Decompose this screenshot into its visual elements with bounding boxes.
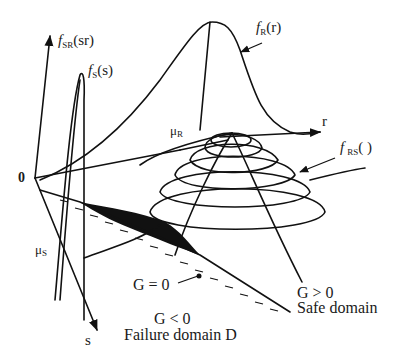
diagram-canvas: fSR(sr) fS(s) fR(r) fRS( ) μR μS 0 r s G… <box>0 0 406 360</box>
origin-label: 0 <box>18 170 25 185</box>
g-zero-label: G = 0 <box>133 276 170 293</box>
interference-diagram: fSR(sr) fS(s) fR(r) fRS( ) μR μS 0 r s G… <box>0 0 406 360</box>
g-negative-label: G < 0 <box>154 310 191 327</box>
fs-curve <box>55 74 84 320</box>
s-axis-label: s <box>85 332 91 348</box>
r-axis-label: r <box>322 113 327 129</box>
limit-state-region <box>40 190 290 312</box>
fs-label: fS(s) <box>88 62 113 80</box>
safe-domain-label: Safe domain <box>297 299 377 316</box>
fsr-label: fSR(sr) <box>58 32 94 50</box>
mu-s-label: μS <box>35 242 47 258</box>
fr-label: fR(r) <box>256 19 281 37</box>
fsr-axis <box>35 36 50 178</box>
frs-label: fRS( ) <box>340 139 372 157</box>
frs-surface <box>140 133 365 282</box>
mu-r-label: μR <box>170 123 183 139</box>
failure-domain-label: Failure domain D <box>124 326 237 343</box>
